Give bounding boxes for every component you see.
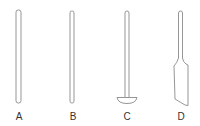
tool-c-label: C (119, 111, 135, 123)
tool-d-blade-icon (174, 11, 188, 106)
tool-a-label: A (11, 111, 27, 123)
tool-d-label: D (173, 111, 189, 123)
tool-c-rod-with-foot-icon (117, 11, 137, 104)
tools-diagram (0, 0, 200, 126)
tool-b-label: B (65, 111, 81, 123)
tool-a-rod-icon (16, 10, 21, 103)
tool-b-rod-icon (70, 11, 74, 103)
